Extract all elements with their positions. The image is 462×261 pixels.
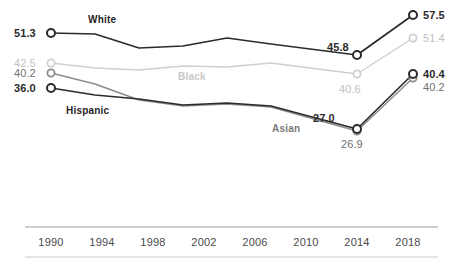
marker-hispanic-1990 [47,84,55,92]
marker-white-2014 [353,51,361,59]
mid-value-hispanic: 27.0 [313,113,335,124]
marker-black-1990 [47,59,54,66]
end-value-white: 57.5 [423,10,445,21]
marker-white-2018 [409,11,417,19]
end-value-asian: 40.2 [423,82,445,93]
end-value-black: 51.4 [423,33,445,44]
start-value-hispanic: 36.0 [14,83,36,94]
marker-hispanic-2018 [409,70,417,78]
chart-canvas [0,0,462,261]
slope-line-chart: 51.3 42.5 40.2 36.0 57.5 51.4 40.4 40.2 … [0,0,462,261]
x-tick-2018: 2018 [378,236,438,248]
marker-hispanic-2014 [353,125,361,133]
series-label-white: White [88,15,116,25]
end-value-hispanic: 40.4 [423,69,445,80]
marker-black-2014 [353,70,360,77]
series-line-asian [51,73,413,131]
mid-value-white: 45.8 [327,42,349,53]
marker-black-2018 [409,34,416,41]
mid-value-asian: 26.9 [341,139,363,150]
start-value-asian: 40.2 [14,68,36,79]
mid-value-black: 40.6 [339,84,361,95]
marker-asian-1990 [47,69,54,76]
start-value-white: 51.3 [14,28,36,39]
series-label-black: Black [178,72,206,82]
marker-white-1990 [47,29,55,37]
series-label-asian: Asian [272,124,300,134]
series-label-hispanic: Hispanic [66,106,109,116]
